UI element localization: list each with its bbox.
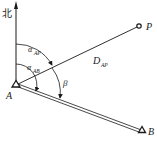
north-axis	[14, 1, 18, 85]
north-arrow-icon	[14, 1, 18, 9]
arc-beta	[52, 68, 60, 98]
line-ap	[16, 27, 137, 85]
point-b-label: B	[148, 126, 154, 137]
alpha-ap-sub: AP	[33, 50, 41, 56]
point-p-label: P	[145, 21, 152, 32]
north-label: 北	[2, 8, 12, 19]
station-b-icon	[139, 127, 146, 133]
distance-symbol: D	[92, 55, 101, 66]
survey-diagram: 北 P A B α AP α AB β D AP	[0, 0, 157, 151]
point-p-icon	[137, 24, 141, 28]
point-a-label: A	[5, 90, 13, 101]
alpha-ap-symbol: α	[28, 45, 33, 54]
distance-sub: AP	[100, 62, 108, 68]
line-ab	[17, 84, 140, 132]
beta-symbol: β	[62, 78, 68, 88]
alpha-ab-sub: AB	[32, 68, 40, 74]
